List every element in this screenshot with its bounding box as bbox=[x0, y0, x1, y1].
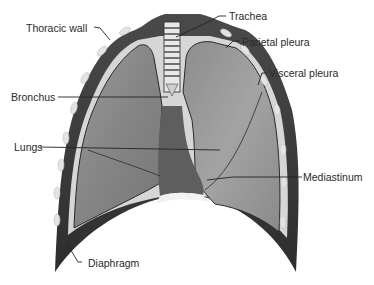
label-bronchus: Bronchus bbox=[11, 91, 55, 103]
label-parietal-pleura: Parietal pleura bbox=[242, 36, 310, 48]
thorax-diagram: Thoracic wall Trachea Parietal pleura Vi… bbox=[0, 0, 374, 285]
label-visceral-pleura: Visceral pleura bbox=[269, 67, 338, 79]
thorax-illustration bbox=[0, 0, 374, 285]
label-lungs: Lungs bbox=[14, 141, 43, 153]
label-trachea: Trachea bbox=[229, 10, 267, 22]
label-mediastinum: Mediastinum bbox=[303, 171, 363, 183]
leader-thoracic-wall bbox=[94, 27, 110, 40]
label-thoracic-wall: Thoracic wall bbox=[26, 22, 87, 34]
label-diaphragm: Diaphragm bbox=[88, 257, 139, 269]
trachea-shape bbox=[164, 22, 180, 96]
